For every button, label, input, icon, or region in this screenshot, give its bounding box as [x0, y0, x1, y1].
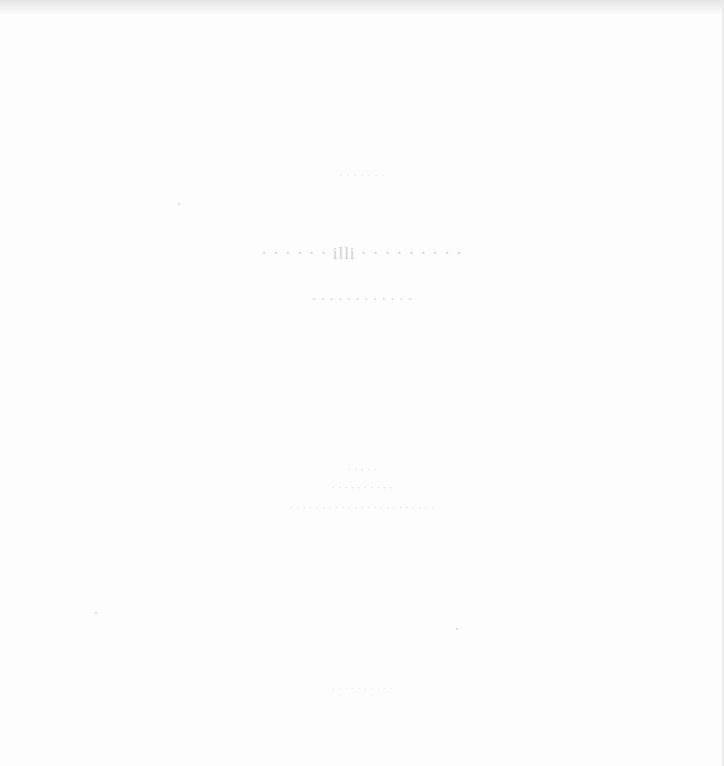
document-subtitle: · · · · · · · · · · · · — [0, 291, 724, 308]
footer-text: · · · · · · · · · · — [0, 682, 724, 694]
scan-speck — [95, 612, 97, 614]
meta-line-2: · · · · · · · · · · — [0, 481, 724, 493]
scan-speck — [456, 628, 458, 630]
meta-line-1: · · · · · — [0, 463, 724, 475]
scan-speck — [178, 203, 180, 205]
document-title: · · · · · · illi · · · · · · · · · — [0, 244, 724, 264]
scan-top-shadow — [0, 0, 724, 14]
faint-header-text: · · · · · · · — [0, 168, 724, 183]
meta-line-3: · · · · · · · · · · · · · · · · · · · · … — [0, 501, 724, 513]
